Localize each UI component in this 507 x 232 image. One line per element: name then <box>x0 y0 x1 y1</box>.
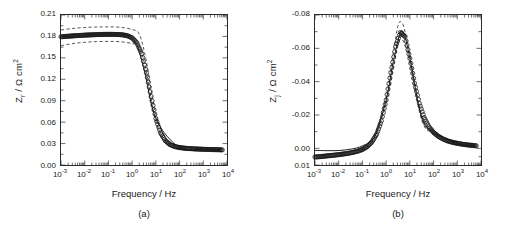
x-tick-label: 10-3 <box>53 170 67 179</box>
y-tick-label: 0.06 <box>16 119 56 127</box>
confidence-bound-line <box>61 27 222 150</box>
x-tick-label: 102 <box>174 170 186 179</box>
y-tick-label: 0.03 <box>16 140 56 148</box>
x-tick-label: 10-1 <box>101 170 115 179</box>
y-tick-label: -0.04 <box>270 78 310 86</box>
y-tick-label: 0.00 <box>270 145 310 153</box>
x-tick-label: 101 <box>404 170 416 179</box>
data-marker-series <box>59 32 224 152</box>
y-tick-label: 0.00 <box>16 162 56 170</box>
y-tick-label: 0.15 <box>16 53 56 61</box>
y-tick-label: 0.18 <box>16 32 56 40</box>
confidence-bound-line <box>61 41 222 150</box>
panel-a-data-canvas <box>61 15 227 165</box>
panel-b-x-axis-label: Frequency / Hz <box>314 188 482 199</box>
y-tick-label: 0.21 <box>16 10 56 18</box>
x-tick-label: 100 <box>126 170 138 179</box>
panel-b-data-canvas <box>315 15 481 165</box>
panel-b-plot-area <box>314 14 482 166</box>
x-tick-label: 104 <box>476 170 488 179</box>
panel-a-x-axis-label: Frequency / Hz <box>60 188 228 199</box>
x-tick-label: 100 <box>380 170 392 179</box>
panel-b: Zj / Ω cm2 -0.08-0.06-0.04-0.020.000.01 … <box>254 0 507 232</box>
x-tick-label: 103 <box>198 170 210 179</box>
y-tick-label: -0.02 <box>270 111 310 119</box>
panel-b-y-axis-label-subscript: j <box>273 95 280 97</box>
panel-a: Zr / Ω cm2 0.000.030.060.090.120.150.180… <box>0 0 253 232</box>
x-tick-label: 10-3 <box>307 170 321 179</box>
panel-b-caption: (b) <box>314 208 482 219</box>
x-tick-label: 10-2 <box>331 170 345 179</box>
y-tick-label: 0.12 <box>16 75 56 83</box>
panel-a-plot-area <box>60 14 228 166</box>
y-tick-label: -0.06 <box>270 44 310 52</box>
x-tick-label: 103 <box>452 170 464 179</box>
figure-impedance-spectra: Zr / Ω cm2 0.000.030.060.090.120.150.180… <box>0 0 507 232</box>
y-tick-label: -0.08 <box>270 10 310 18</box>
x-tick-label: 10-2 <box>77 170 91 179</box>
x-tick-label: 10-1 <box>355 170 369 179</box>
x-tick-label: 101 <box>150 170 162 179</box>
panel-b-y-axis-label-base: Z <box>267 97 278 103</box>
panel-a-caption: (a) <box>60 208 228 219</box>
x-tick-label: 104 <box>222 170 234 179</box>
y-tick-label: 0.01 <box>270 162 310 170</box>
x-tick-label: 102 <box>428 170 440 179</box>
panel-b-y-axis-label-superscript: 2 <box>266 59 273 63</box>
y-tick-label: 0.09 <box>16 97 56 105</box>
